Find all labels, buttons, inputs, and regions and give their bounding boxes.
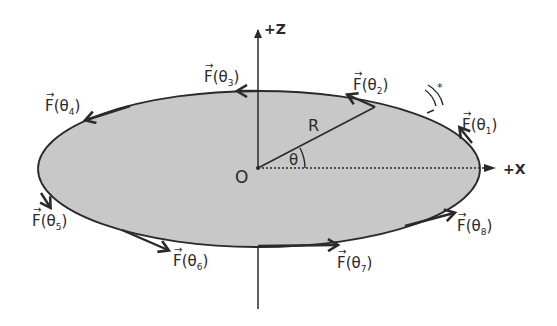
svg-text:→: → [46,89,54,100]
svg-text:F(θ3): F(θ3) [204,68,239,88]
force-label-theta7: F(θ7) → [337,246,372,274]
svg-text:F(θ5): F(θ5) [32,212,67,232]
angle-label: θ [289,151,298,169]
x-axis-arrowhead [484,164,496,172]
force-label-theta8: F(θ8) → [457,209,492,237]
force-arrow-theta7 [258,245,337,246]
svg-text:F(θ6): F(θ6) [173,252,208,272]
force-label-theta4: F(θ4) → [45,89,80,117]
svg-text:→: → [33,204,41,215]
force-label-theta6: F(θ6) → [173,244,208,272]
svg-text:→: → [205,60,213,71]
force-arrow-theta5 [41,193,50,207]
rotation-indicator-icon: * [425,81,443,113]
svg-text:→: → [174,244,182,255]
svg-text:F(θ7): F(θ7) [337,254,372,274]
force-label-theta1: F(θ1) → [462,108,497,136]
svg-text:*: * [437,81,443,94]
x-axis-label: +X [503,161,526,177]
svg-text:F(θ1): F(θ1) [462,116,497,136]
svg-text:F(θ8): F(θ8) [457,217,492,237]
z-axis-label: +Z [264,21,286,37]
svg-text:→: → [338,246,346,257]
svg-text:→: → [354,68,362,79]
radius-label: R [308,116,319,135]
force-label-theta3: F(θ3) → [204,60,239,88]
force-label-theta2: F(θ2) → [353,68,388,96]
force-label-theta5: F(θ5) → [32,204,67,232]
origin-label: O [235,167,248,187]
svg-text:→: → [458,209,466,220]
rotating-disk-diagram: +Z +X O R θ * F(θ1) → F(θ2) → F(θ3) → [0,0,557,326]
svg-text:F(θ4): F(θ4) [45,97,80,117]
svg-text:F(θ2): F(θ2) [353,76,388,96]
svg-text:→: → [463,108,471,119]
